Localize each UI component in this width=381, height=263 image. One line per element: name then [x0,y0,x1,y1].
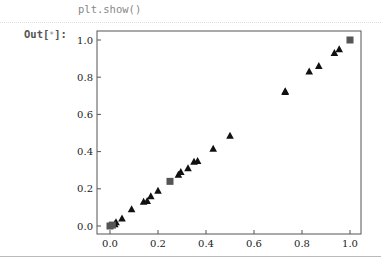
y-tick-label: 0.0 [77,221,93,232]
cell-bottom-border [0,256,381,257]
x-tick-label: 0.6 [246,238,262,249]
x-tick-label: 1.0 [342,238,358,249]
y-tick-label: 0.4 [77,146,93,157]
square-marker [109,222,116,229]
x-tick-label: 0.8 [294,238,310,249]
square-marker [347,37,354,44]
y-tick-label: 1.0 [77,35,93,46]
plot-frame [97,31,361,234]
x-tick-label: 0.2 [150,238,166,249]
y-tick-label: 0.8 [77,72,93,83]
x-tick-label: 0.0 [102,238,118,249]
scatter-chart: 0.00.20.40.60.81.00.00.20.40.60.81.0 [0,0,381,263]
square-marker [167,178,174,185]
x-tick-label: 0.4 [198,238,214,249]
y-tick-label: 0.2 [77,183,93,194]
y-tick-label: 0.6 [77,109,93,120]
